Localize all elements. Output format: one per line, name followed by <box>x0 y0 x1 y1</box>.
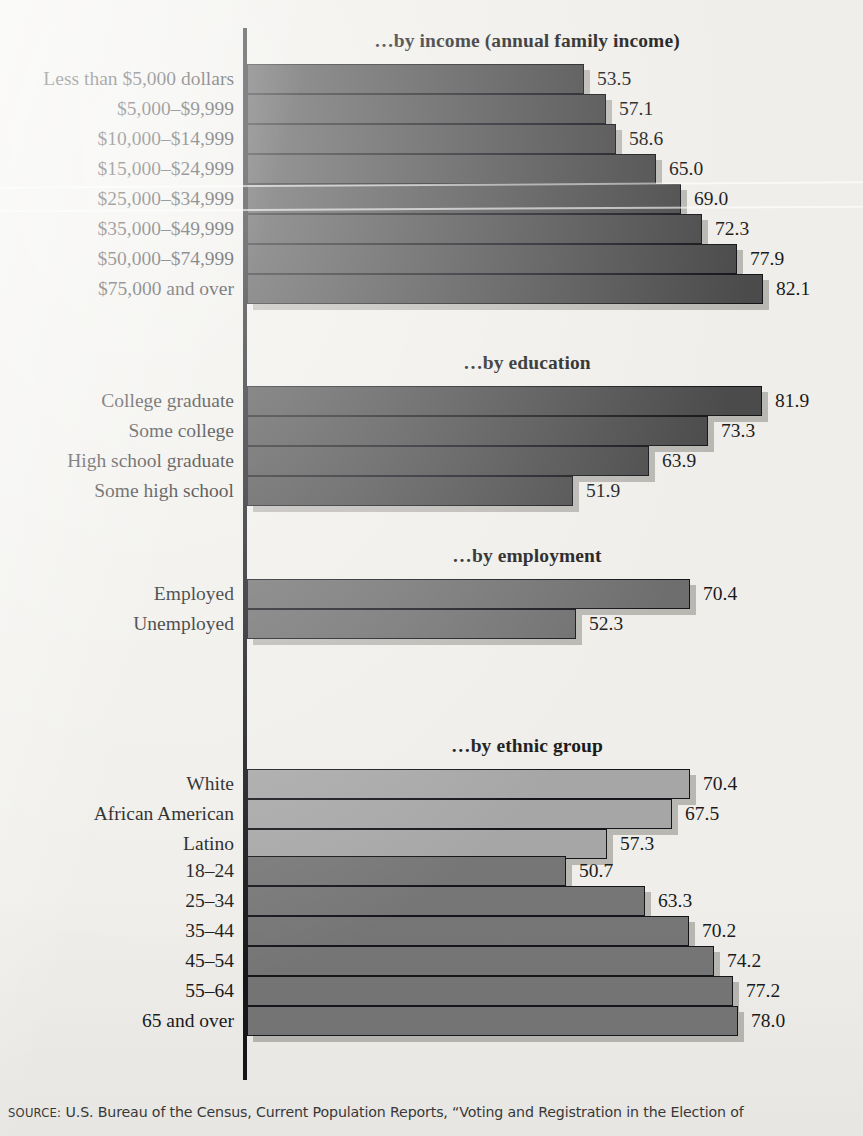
bar <box>247 976 733 1006</box>
bar <box>247 184 681 214</box>
bar-fill <box>247 946 714 976</box>
bar-value-label: 70.4 <box>703 584 737 604</box>
chart-row: Less than $5,000 dollars53.5 <box>0 64 863 94</box>
bar <box>247 94 606 124</box>
group-title: …by income (annual family income) <box>247 30 807 52</box>
chart-row: Some high school51.9 <box>0 476 863 506</box>
bar-fill <box>247 244 737 274</box>
bar-value-label: 57.1 <box>619 99 653 119</box>
chart-group: …by income (annual family income)Less th… <box>0 30 863 318</box>
bar <box>247 886 645 916</box>
category-label: Employed <box>154 584 234 604</box>
chart-row: Unemployed52.3 <box>0 609 863 639</box>
bar <box>247 856 566 886</box>
category-label: Some high school <box>94 481 234 501</box>
category-label: Unemployed <box>133 614 234 634</box>
bar-value-label: 74.2 <box>727 951 761 971</box>
category-label: $5,000–$9,999 <box>117 99 234 119</box>
bar <box>247 609 576 639</box>
bar-fill <box>247 916 689 946</box>
bar <box>247 476 573 506</box>
chart-row: $5,000–$9,99957.1 <box>0 94 863 124</box>
category-label: 65 and over <box>142 1011 234 1031</box>
bar-fill <box>247 94 606 124</box>
chart-row: 55–6477.2 <box>0 976 863 1006</box>
bar-fill <box>247 214 702 244</box>
bar-fill <box>247 274 763 304</box>
bar-value-label: 65.0 <box>669 159 703 179</box>
bar <box>247 124 616 154</box>
chart-row: 18–2450.7 <box>0 856 863 886</box>
source-note: SOURCE: U.S. Bureau of the Census, Curre… <box>8 1104 858 1120</box>
bar <box>247 416 708 446</box>
chart-row: 65 and over78.0 <box>0 1006 863 1036</box>
bar-value-label: 51.9 <box>586 481 620 501</box>
bar-fill <box>247 609 576 639</box>
bar-fill <box>247 799 672 829</box>
bar-value-label: 69.0 <box>694 189 728 209</box>
category-label: $15,000–$24,999 <box>98 159 235 179</box>
chart-group: …by age18–2450.725–3463.335–4470.245–547… <box>0 822 863 1050</box>
bar-value-label: 70.2 <box>702 921 736 941</box>
bar <box>247 386 762 416</box>
bar-value-label: 70.4 <box>703 774 737 794</box>
bar-fill <box>247 184 681 214</box>
bar-value-label: 73.3 <box>721 421 755 441</box>
bar-fill <box>247 1006 738 1036</box>
bar-value-label: 81.9 <box>775 391 809 411</box>
bar-value-label: 67.5 <box>685 804 719 824</box>
bar-fill <box>247 416 708 446</box>
category-label: 35–44 <box>185 921 234 941</box>
bar <box>247 64 584 94</box>
bar-fill <box>247 769 690 799</box>
bar-fill <box>247 64 584 94</box>
bar-fill <box>247 386 762 416</box>
bar-value-label: 77.9 <box>750 249 784 269</box>
source-text: U.S. Bureau of the Census, Current Popul… <box>66 1104 744 1120</box>
chart-row: High school graduate63.9 <box>0 446 863 476</box>
bar <box>247 244 737 274</box>
category-label: High school graduate <box>67 451 234 471</box>
bar-value-label: 57.3 <box>620 834 654 854</box>
chart-group: …by educationCollege graduate81.9Some co… <box>0 352 863 520</box>
bar-value-label: 63.3 <box>658 891 692 911</box>
bar <box>247 1006 738 1036</box>
category-label: $10,000–$14,999 <box>98 129 235 149</box>
chart-row: 45–5474.2 <box>0 946 863 976</box>
category-label: 25–34 <box>185 891 234 911</box>
chart-row: Employed70.4 <box>0 579 863 609</box>
group-title: …by ethnic group <box>247 735 807 757</box>
chart-row: Some college73.3 <box>0 416 863 446</box>
group-title: …by employment <box>247 545 807 567</box>
bar <box>247 579 690 609</box>
bar-value-label: 63.9 <box>662 451 696 471</box>
bar-fill <box>247 124 616 154</box>
category-label: White <box>186 774 234 794</box>
bar <box>247 769 690 799</box>
bar-chart: …by income (annual family income)Less th… <box>0 0 863 1080</box>
bar <box>247 829 607 859</box>
bar-fill <box>247 856 566 886</box>
chart-row: $50,000–$74,99977.9 <box>0 244 863 274</box>
bar-value-label: 50.7 <box>579 861 613 881</box>
chart-row: $10,000–$14,99958.6 <box>0 124 863 154</box>
bar <box>247 946 714 976</box>
category-label: $35,000–$49,999 <box>98 219 235 239</box>
bar-value-label: 53.5 <box>597 69 631 89</box>
chart-row: 25–3463.3 <box>0 886 863 916</box>
category-label: $75,000 and over <box>98 279 234 299</box>
bar-value-label: 58.6 <box>629 129 663 149</box>
category-label: 55–64 <box>185 981 234 1001</box>
chart-row: $35,000–$49,99972.3 <box>0 214 863 244</box>
chart-row: White70.4 <box>0 769 863 799</box>
bar <box>247 799 672 829</box>
bar <box>247 154 656 184</box>
bar <box>247 214 702 244</box>
bar-fill <box>247 579 690 609</box>
bar <box>247 916 689 946</box>
category-label: College graduate <box>101 391 234 411</box>
bar-fill <box>247 154 656 184</box>
chart-row: 35–4470.2 <box>0 916 863 946</box>
bar-value-label: 82.1 <box>776 279 810 299</box>
group-title: …by education <box>247 352 807 374</box>
